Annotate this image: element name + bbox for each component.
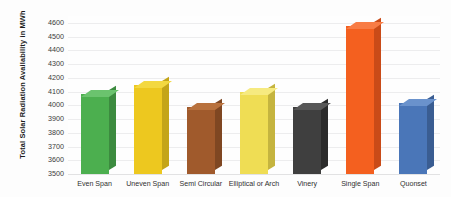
- y-axis-tick-label: 3800: [30, 129, 64, 137]
- bar-front-face: [293, 107, 321, 174]
- bar-column: [134, 85, 162, 174]
- y-axis-tick-label: 4300: [30, 60, 64, 68]
- bar-column: [346, 26, 374, 174]
- x-axis-tick-labels: Even SpanUneven SpanSemi CircularEllipti…: [68, 180, 440, 194]
- bar-column: [293, 107, 321, 174]
- x-axis-tick-label: Elliptical or Arch: [227, 180, 280, 188]
- x-axis-tick-label: Quonset: [387, 180, 440, 188]
- bar-column: [81, 94, 109, 174]
- bar-front-face: [240, 92, 268, 174]
- y-axis-tick-label: 4400: [30, 46, 64, 54]
- bar-side-face: [268, 83, 275, 170]
- bar-front-face: [81, 94, 109, 174]
- y-axis-tick-label: 4500: [30, 33, 64, 41]
- bar-column: [399, 103, 427, 174]
- x-axis-tick-label: Even Span: [68, 180, 121, 188]
- y-axis-tick-label: 3700: [30, 143, 64, 151]
- x-axis-tick-label: Single Span: [334, 180, 387, 188]
- bar-side-face: [374, 17, 381, 170]
- y-axis-tick-label: 3600: [30, 156, 64, 164]
- bar-side-face: [427, 95, 434, 170]
- bar-front-face: [346, 26, 374, 174]
- bar-column: [240, 92, 268, 174]
- y-axis-tick-label: 4000: [30, 101, 64, 109]
- x-axis-tick-label: Vinery: [281, 180, 334, 188]
- y-axis-tick-label: 3500: [30, 170, 64, 178]
- bar-side-face: [321, 99, 328, 170]
- y-axis-tick-label: 4600: [30, 19, 64, 27]
- bar-front-face: [399, 103, 427, 174]
- gridline: [68, 174, 440, 175]
- x-axis-tick-label: Semi Circular: [174, 180, 227, 188]
- x-axis-tick-label: Uneven Span: [121, 180, 174, 188]
- bar-column: [187, 107, 215, 174]
- y-axis-title: Total Solar Radiation Availability in MW…: [18, 0, 27, 175]
- y-axis-tick-label: 4100: [30, 88, 64, 96]
- bar-chart: Total Solar Radiation Availability in MW…: [0, 0, 451, 197]
- bar-side-face: [162, 77, 169, 170]
- bar-series: [68, 16, 440, 174]
- plot-area: [68, 16, 440, 174]
- bar-side-face: [109, 86, 116, 170]
- bar-front-face: [134, 85, 162, 174]
- y-axis-tick-label: 3900: [30, 115, 64, 123]
- bar-front-face: [187, 107, 215, 174]
- y-axis-tick-label: 4200: [30, 74, 64, 82]
